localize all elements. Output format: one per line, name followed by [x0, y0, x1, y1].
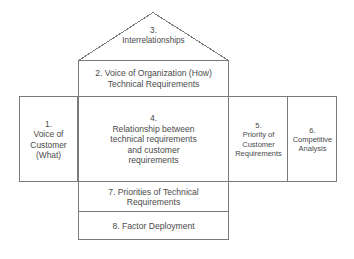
cell-voice-of-organization: 2. Voice of Organization (How)Technical …: [78, 60, 229, 97]
cell-voice-of-organization-line-1: Technical Requirements: [108, 79, 200, 89]
cell-voice-of-customer: 1.Voice ofCustomer(What): [19, 97, 78, 182]
cell-competitive-analysis: 6.CompetitiveAnalysis: [288, 97, 337, 182]
house-of-quality-diagram: 3.Interrelationships 2. Voice of Organiz…: [0, 0, 354, 259]
cell-priorities-of-technical-requirements-line-0: 7. Priorities of Technical: [108, 187, 199, 197]
cell-priority-of-customer-requirements-line-3: Requirements: [235, 149, 282, 158]
cell-interrelationships: 3.Interrelationships: [78, 26, 229, 60]
cell-competitive-analysis-line-1: Competitive: [293, 135, 333, 144]
cell-relationship-matrix-line-2: technical requirements: [110, 134, 196, 144]
cell-competitive-analysis-line-0: 6.: [309, 126, 315, 135]
cell-voice-of-customer-line-3: (What): [36, 150, 61, 160]
cell-factor-deployment-line-0: 8. Factor Deployment: [112, 221, 194, 231]
cell-priority-of-customer-requirements-line-2: Customer: [242, 140, 275, 149]
cell-relationship-matrix-line-4: requirements: [128, 155, 178, 165]
cell-priority-of-customer-requirements-line-0: 5.: [255, 121, 261, 130]
cell-voice-of-customer-line-2: Customer: [30, 140, 66, 150]
cell-relationship-matrix-line-1: Relationship between: [112, 124, 194, 134]
cell-voice-of-organization-line-0: 2. Voice of Organization (How): [95, 68, 212, 78]
cell-voice-of-customer-line-0: 1.: [45, 119, 52, 129]
cell-interrelationships-line-1: Interrelationships: [122, 36, 184, 46]
cell-relationship-matrix-line-3: and customer: [127, 145, 179, 155]
cell-voice-of-customer-line-1: Voice of: [34, 129, 64, 139]
cell-factor-deployment: 8. Factor Deployment: [78, 212, 229, 240]
cell-interrelationships-line-0: 3.: [150, 26, 157, 36]
cell-priority-of-customer-requirements: 5.Priority ofCustomerRequirements: [229, 97, 288, 182]
cell-relationship-matrix-line-0: 4.: [150, 113, 157, 123]
cell-priorities-of-technical-requirements-line-1: Requirements: [127, 197, 181, 207]
cell-priorities-of-technical-requirements: 7. Priorities of TechnicalRequirements: [78, 182, 229, 212]
cell-relationship-matrix: 4.Relationship betweentechnical requirem…: [78, 97, 229, 182]
cell-competitive-analysis-line-2: Analysis: [299, 144, 327, 153]
cell-priority-of-customer-requirements-line-1: Priority of: [243, 130, 275, 139]
